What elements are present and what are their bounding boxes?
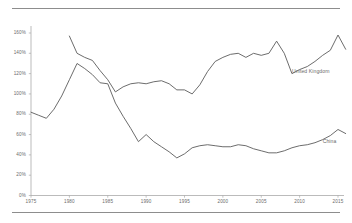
chart-figure: 0%20%40%60%80%100%120%140%160% 197519801… xyxy=(0,0,352,223)
y-tick-label: 20% xyxy=(4,172,26,177)
x-tick-label: 2000 xyxy=(208,199,238,204)
axis-lines xyxy=(31,26,344,196)
line-chart-plot xyxy=(0,0,352,223)
x-tick-label: 1980 xyxy=(54,199,84,204)
series-label-china: China xyxy=(323,138,337,144)
data-series-group xyxy=(31,35,346,158)
x-tick-label: 2015 xyxy=(323,199,352,204)
x-tick-label: 2010 xyxy=(285,199,315,204)
y-tick-label: 0% xyxy=(4,193,26,198)
x-tick-label: 1975 xyxy=(16,199,46,204)
x-tick-label: 1985 xyxy=(93,199,123,204)
x-tick-label: 1995 xyxy=(170,199,200,204)
series-line-china xyxy=(31,63,346,157)
y-tick-label: 60% xyxy=(4,132,26,137)
x-tick-label: 1990 xyxy=(131,199,161,204)
series-label-united-kingdom: United Kingdom xyxy=(292,68,330,74)
y-tick-label: 120% xyxy=(4,71,26,76)
y-tick-label: 140% xyxy=(4,50,26,55)
x-tick-label: 2005 xyxy=(246,199,276,204)
y-tick-label: 160% xyxy=(4,30,26,35)
y-tick-label: 100% xyxy=(4,91,26,96)
axis-ticks xyxy=(29,33,338,198)
series-line-united-kingdom xyxy=(69,35,345,94)
y-tick-label: 80% xyxy=(4,111,26,116)
y-tick-label: 40% xyxy=(4,152,26,157)
